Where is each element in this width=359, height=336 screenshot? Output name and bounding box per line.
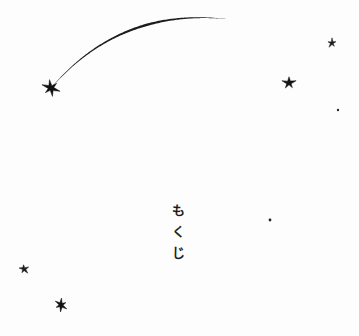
star-upper-right — [328, 38, 336, 47]
toc-heading-char-2: く — [163, 221, 193, 242]
star-right-mid — [282, 77, 296, 88]
toc-heading: も く じ — [163, 200, 193, 263]
dot-right-upper — [337, 109, 339, 111]
comet-trail — [51, 17, 226, 88]
dot-center-right — [269, 219, 272, 222]
toc-heading-char-3: じ — [163, 242, 193, 263]
night-sky-illustration — [0, 0, 359, 336]
star-lower-left — [19, 265, 29, 273]
toc-page: も く じ — [0, 0, 359, 336]
star-comet-head — [42, 80, 60, 97]
toc-heading-char-1: も — [163, 200, 193, 221]
star-bottom-left — [55, 298, 67, 312]
